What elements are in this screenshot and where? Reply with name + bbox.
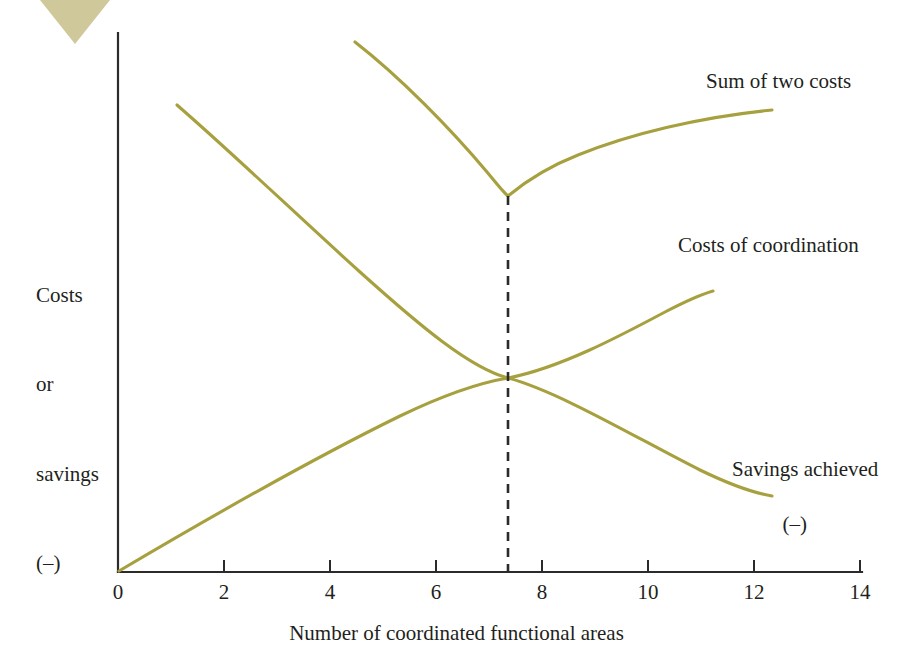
x-tick-label-6: 6 [414, 580, 458, 605]
figure-container: Costs or savings (–) 0 2 4 6 8 10 12 14 … [0, 0, 913, 661]
x-tick-label-2: 2 [202, 580, 246, 605]
y-axis-label: Costs or savings (–) [36, 221, 99, 638]
x-tick-label-8: 8 [520, 580, 564, 605]
x-axis-label: Number of coordinated functional areas [0, 620, 913, 648]
series-sum-of-two-costs [355, 42, 772, 196]
x-tick-label-10: 10 [626, 580, 670, 605]
y-axis-label-line-2: or [36, 370, 99, 400]
x-tick-label-0: 0 [96, 580, 140, 605]
y-axis-label-line-4: (–) [36, 549, 99, 579]
y-axis-label-line-3: savings [36, 460, 99, 490]
annotation-costs-of-coordination: Costs of coordination [678, 232, 859, 260]
series-savings-achieved [177, 105, 772, 496]
annotation-savings-achieved-sign: (–) [711, 511, 878, 539]
annotation-sum-of-two-costs: Sum of two costs [706, 68, 851, 96]
y-axis-label-line-1: Costs [36, 281, 99, 311]
annotation-savings-achieved: Savings achieved (–) [711, 428, 878, 594]
x-tick-label-4: 4 [308, 580, 352, 605]
annotation-savings-achieved-text: Savings achieved [732, 457, 878, 481]
